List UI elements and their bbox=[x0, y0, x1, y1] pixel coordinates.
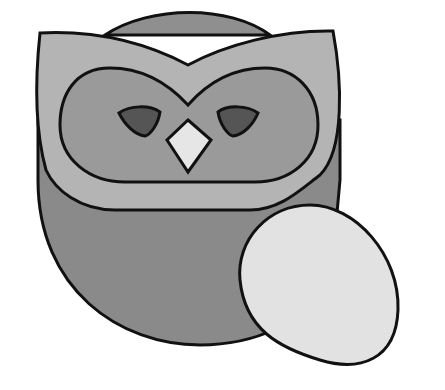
egg bbox=[240, 205, 398, 364]
owl-svg bbox=[0, 0, 445, 390]
owl-head-dome bbox=[105, 13, 270, 36]
owl-illustration bbox=[0, 0, 445, 390]
